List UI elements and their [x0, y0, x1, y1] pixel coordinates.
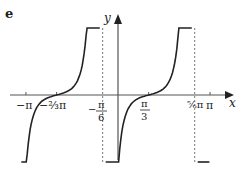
asym-label-five-sixths-pi: ⅚π: [187, 99, 204, 110]
asym-label-num: π: [98, 99, 105, 110]
tick-label-pi-over-3-num: π: [141, 98, 148, 109]
tick-label-neg-pi: −π: [16, 99, 32, 112]
asym-label-sign: −: [88, 104, 96, 115]
y-axis-label: y: [103, 11, 111, 25]
asym-label-den: 6: [98, 112, 104, 123]
graph: e x y −π −⅔π π 3 π − π 6 ⅚π: [0, 0, 244, 170]
tick-label-pi-over-3-den: 3: [141, 111, 147, 122]
y-axis-arrow-icon: [114, 14, 122, 24]
figure-label: e: [5, 6, 13, 21]
tick-label-pi: π: [206, 99, 213, 112]
tick-label-neg-two-thirds-pi: −⅔π: [39, 99, 66, 112]
x-axis-label: x: [229, 96, 236, 110]
